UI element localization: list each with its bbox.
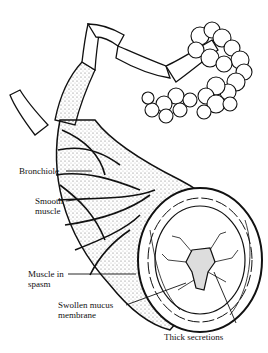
label-thick-secretions: Thick secretions: [164, 332, 223, 342]
cross-section: [138, 188, 262, 332]
label-swollen-mucus-membrane: Swollen mucus membrane: [58, 300, 113, 320]
label-smooth-muscle: Smooth muscle: [35, 196, 63, 216]
label-bronchiole: Bronchiole: [19, 166, 59, 176]
upper-branches: [10, 24, 218, 135]
label-muscle-in-spasm: Muscle in spasm: [28, 269, 64, 289]
bronchiole-illustration: [0, 0, 268, 353]
